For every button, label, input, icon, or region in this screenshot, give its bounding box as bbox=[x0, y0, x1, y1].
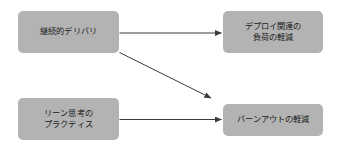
node-label: バーンアウトの軽減 bbox=[233, 114, 314, 126]
node-burnout: バーンアウトの軽減 bbox=[223, 104, 323, 136]
edge-cd-to-burnout bbox=[120, 53, 212, 99]
node-lean-practices: リーン思考の プラクティス bbox=[18, 98, 119, 140]
node-label: 継続的デリバリ bbox=[36, 26, 101, 38]
diagram-canvas: 継続的デリバリ デプロイ関連の 負荷の軽減 リーン思考の プラクティス バーンア… bbox=[0, 0, 343, 151]
node-label: リーン思考の プラクティス bbox=[40, 108, 97, 131]
node-continuous-delivery: 継続的デリバリ bbox=[18, 11, 119, 53]
node-label: デプロイ関連の 負荷の軽減 bbox=[241, 21, 306, 44]
node-deploy-burden: デプロイ関連の 負荷の軽減 bbox=[223, 11, 323, 53]
